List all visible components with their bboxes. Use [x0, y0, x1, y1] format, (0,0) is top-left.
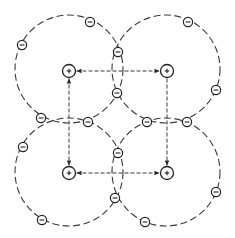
arrowhead-icon	[67, 161, 71, 166]
ion-bottom-left	[63, 167, 76, 180]
bond-bottom	[77, 171, 160, 175]
electron	[183, 17, 192, 26]
electron	[36, 113, 45, 122]
arrowhead-icon	[165, 161, 169, 166]
bond-right	[165, 79, 169, 166]
arrowhead-icon	[77, 171, 82, 175]
bond-top	[77, 69, 160, 73]
electron	[142, 117, 151, 126]
electron	[113, 148, 122, 157]
electron	[37, 215, 46, 224]
electron	[211, 187, 220, 196]
electron	[140, 217, 149, 226]
electron	[112, 88, 121, 97]
electron	[113, 47, 122, 56]
arrowhead-icon	[77, 69, 82, 73]
electron	[182, 117, 191, 126]
electron	[83, 117, 92, 126]
electron	[17, 40, 26, 49]
arrowhead-icon	[67, 79, 71, 84]
arrowhead-icon	[155, 69, 160, 73]
ion-top-left	[63, 65, 76, 78]
metallic-bonding-diagram	[0, 0, 235, 238]
arrowhead-icon	[155, 171, 160, 175]
ion-bottom-right	[161, 167, 174, 180]
electron	[85, 17, 94, 26]
bond-left	[67, 79, 71, 166]
ion-top-right	[161, 65, 174, 78]
electron	[18, 142, 27, 151]
electron	[211, 85, 220, 94]
electron	[110, 193, 119, 202]
